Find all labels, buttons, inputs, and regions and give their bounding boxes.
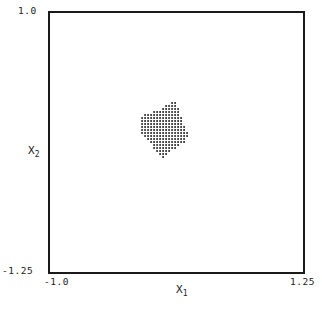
x-tick-max: 1.25 xyxy=(290,276,315,287)
y-axis-label: X2 xyxy=(28,144,39,159)
point-cloud xyxy=(0,0,322,309)
x-tick-min: -1.0 xyxy=(44,276,69,287)
y-tick-min: -1.25 xyxy=(2,265,33,276)
x-axis-label: X1 xyxy=(176,283,187,298)
y-tick-max: 1.0 xyxy=(18,5,37,16)
